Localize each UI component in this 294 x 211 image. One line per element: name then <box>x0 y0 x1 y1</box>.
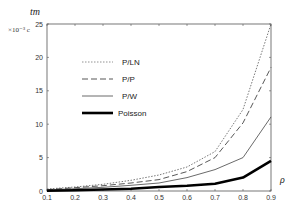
y-tick-label: 0 <box>39 188 43 195</box>
y-multiplier-label: ×10⁻³ c <box>8 26 30 34</box>
x-tick-label: 0.2 <box>70 194 80 201</box>
legend-label: Poisson <box>118 109 146 118</box>
x-tick-label: 0.8 <box>238 194 248 201</box>
y-tick-label: 15 <box>35 87 43 94</box>
series-line-p-ln <box>47 24 271 189</box>
x-tick-label: 0.1 <box>42 194 52 201</box>
y-tick-label: 25 <box>35 21 43 28</box>
legend-label: P/LN <box>122 58 140 67</box>
x-tick-label: 0.5 <box>154 194 164 201</box>
x-tick-label: 0.6 <box>182 194 192 201</box>
x-tick-label: 0.7 <box>210 194 220 201</box>
legend-label: P/P <box>122 75 135 84</box>
chart: 0.10.20.30.40.50.60.70.80.90510152025 P/… <box>0 0 294 211</box>
x-tick-label: 0.4 <box>126 194 136 201</box>
y-tick-label: 5 <box>39 154 43 161</box>
plot-frame <box>47 24 271 191</box>
series-line-p-p <box>47 67 271 189</box>
y-axis-title: tm <box>30 6 40 17</box>
legend-label: P/W <box>122 92 138 101</box>
x-tick-label: 0.3 <box>98 194 108 201</box>
y-tick-label: 20 <box>35 54 43 61</box>
y-tick-label: 10 <box>35 121 43 128</box>
x-tick-label: 0.9 <box>266 194 276 201</box>
x-axis-title: ρ <box>279 174 285 185</box>
